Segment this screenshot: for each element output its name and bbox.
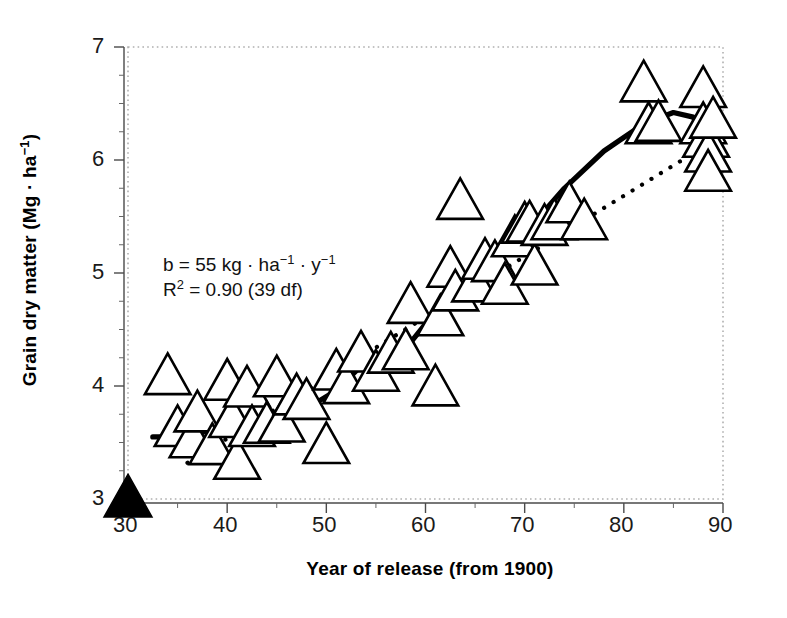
chart-figure: Grain dry matter (Mg · ha−1) Year of rel…: [0, 0, 787, 618]
plot-area: [0, 0, 787, 618]
data-points: [104, 61, 736, 517]
